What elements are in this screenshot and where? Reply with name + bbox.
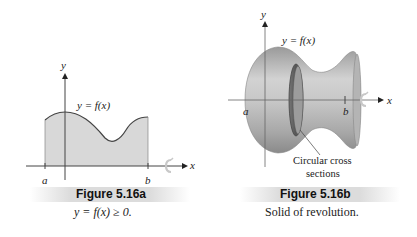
figure-a-caption: y = f(x) ≥ 0.: [74, 205, 132, 220]
annotation-leader: [300, 130, 320, 155]
point-a-label: a: [243, 106, 249, 117]
figure-b-caption: Solid of revolution.: [265, 205, 359, 220]
point-b-label: b: [145, 175, 151, 186]
y-axis-label: y: [61, 60, 66, 71]
x-axis-label: x: [387, 95, 392, 106]
curve-label: y = f(x): [282, 35, 315, 46]
point-a-label: a: [42, 175, 48, 186]
annotation-line-1: Circular cross: [293, 156, 352, 167]
rotation-arrow-icon: [361, 92, 368, 106]
point-b-label: b: [343, 106, 349, 117]
figure-b-title: Figure 5.16b: [280, 187, 351, 202]
figure-a-title: Figure 5.16a: [76, 187, 146, 202]
area-under-curve: [45, 112, 148, 166]
x-axis-label: x: [190, 160, 195, 171]
curve-label: y = f(x): [77, 100, 110, 111]
annotation-line-2: sections: [306, 169, 340, 180]
rotation-arrow-icon: [166, 158, 173, 172]
y-axis-label: y: [261, 9, 266, 20]
figure-a-plot: [26, 73, 188, 180]
